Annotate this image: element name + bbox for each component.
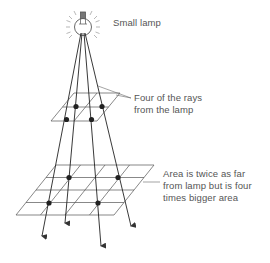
lamp-label: Small lamp <box>113 17 161 29</box>
light-rays <box>42 33 131 246</box>
ray-2 <box>65 33 82 223</box>
area-label-line3: times bigger area <box>163 192 238 204</box>
far-plane-grid <box>16 165 154 215</box>
area-label-line2: from lamp but is four <box>163 180 252 192</box>
ray-1 <box>42 33 81 236</box>
rays-label-line2: from the lamp <box>134 104 193 116</box>
near-plane-grid <box>51 93 120 121</box>
lamp-icon <box>66 11 100 38</box>
rays-label-line1: Four of the rays <box>134 92 202 104</box>
diagram-canvas <box>0 0 270 263</box>
area-label-line1: Area is twice as far <box>163 168 245 180</box>
